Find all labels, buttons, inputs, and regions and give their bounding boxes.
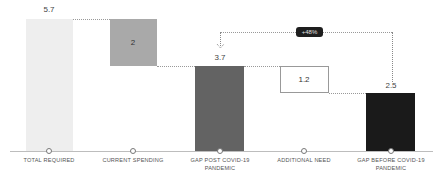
connector-line xyxy=(329,93,366,94)
x-label-gap-post-covid: GAP POST COVID-19 PANDEMIC xyxy=(180,157,260,172)
axis-tick xyxy=(217,148,223,154)
label-line: GAP POST COVID-19 xyxy=(180,157,260,165)
label-line: CURRENT SPENDING xyxy=(93,157,173,165)
x-label-gap-before-covid: GAP BEFORE COVID-19 PANDEMIC xyxy=(351,157,431,172)
bar-total-required xyxy=(26,19,73,151)
axis-tick xyxy=(46,148,52,154)
x-label-additional-need: ADDITIONAL NEED xyxy=(264,157,344,165)
waterfall-chart: 5.7 2 3.7 1.2 2.5 +48% TOTAL REQUIRED CU… xyxy=(0,0,443,181)
label-line: GAP BEFORE COVID-19 xyxy=(351,157,431,165)
axis-tick xyxy=(130,148,136,154)
connector-line xyxy=(73,19,110,20)
bar-gap-before-covid xyxy=(366,93,415,151)
label-line: TOTAL REQUIRED xyxy=(9,157,89,165)
connector-line xyxy=(157,66,195,67)
percent-change-badge: +48% xyxy=(296,27,323,37)
annotation-line xyxy=(392,32,393,82)
arrow-down-icon xyxy=(216,43,225,50)
value-label: 3.7 xyxy=(200,53,240,62)
label-line: ADDITIONAL NEED xyxy=(264,157,344,165)
value-label: 1.2 xyxy=(284,75,324,84)
axis-tick xyxy=(388,148,394,154)
label-line: PANDEMIC xyxy=(180,165,260,173)
value-label: 5.7 xyxy=(29,5,69,14)
bar-gap-post-covid xyxy=(195,66,244,151)
connector-line xyxy=(244,66,280,67)
label-line: PANDEMIC xyxy=(351,165,431,173)
value-label: 2.5 xyxy=(371,81,411,90)
axis-tick xyxy=(301,148,307,154)
x-label-total-required: TOTAL REQUIRED xyxy=(9,157,89,165)
x-label-current-spending: CURRENT SPENDING xyxy=(93,157,173,165)
value-label: 2 xyxy=(113,38,153,47)
